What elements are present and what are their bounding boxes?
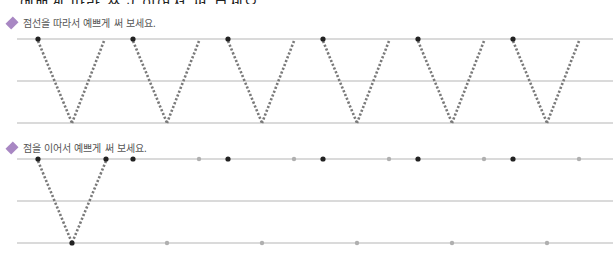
dotted-stroke	[133, 41, 167, 123]
guide-dot	[510, 36, 515, 41]
section1-tracing-area	[17, 36, 613, 123]
dotted-stroke	[547, 41, 579, 123]
guide-dot	[35, 156, 40, 161]
dotted-stroke	[452, 41, 484, 123]
guide-dot	[545, 241, 549, 245]
dotted-stroke	[262, 41, 294, 123]
dotted-stroke	[38, 41, 72, 123]
guide-dot	[35, 36, 40, 41]
guide-dot	[577, 157, 581, 161]
dotted-stroke	[72, 161, 106, 243]
dotted-stroke	[323, 41, 357, 123]
guide-dot	[320, 156, 325, 161]
guide-dot	[415, 156, 420, 161]
dotted-stroke	[72, 41, 104, 123]
dotted-stroke	[228, 41, 262, 123]
guide-dot	[197, 157, 201, 161]
tracing-sheet	[0, 0, 613, 261]
guide-dot	[260, 241, 264, 245]
dotted-stroke	[167, 41, 199, 123]
guide-dot	[415, 36, 420, 41]
guide-dot	[510, 156, 515, 161]
section2-dot-connect-area	[17, 156, 613, 245]
guide-dot	[130, 156, 135, 161]
guide-dot	[450, 241, 454, 245]
guide-dot	[482, 157, 486, 161]
guide-dot	[292, 157, 296, 161]
guide-dot	[130, 36, 135, 41]
guide-dot	[69, 240, 74, 245]
guide-dot	[355, 241, 359, 245]
dotted-stroke	[513, 41, 547, 123]
guide-dot	[320, 36, 325, 41]
dotted-stroke	[418, 41, 452, 123]
guide-dot	[165, 241, 169, 245]
guide-dot	[225, 36, 230, 41]
dotted-stroke	[38, 161, 72, 243]
guide-dot	[387, 157, 391, 161]
dotted-stroke	[357, 41, 389, 123]
guide-dot	[103, 156, 108, 161]
guide-dot	[225, 156, 230, 161]
